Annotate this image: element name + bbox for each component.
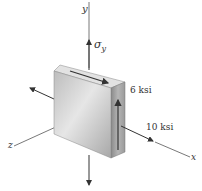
x-axis — [155, 142, 190, 157]
sigma-y-label: σy — [94, 38, 107, 53]
stress-element-diagram: y σy 6 ksi 10 ksi x z — [0, 0, 202, 191]
normal-x-label: 10 ksi — [146, 122, 173, 132]
shear-label: 6 ksi — [130, 85, 152, 95]
x-axis-label: x — [191, 152, 196, 162]
z-axis-label: z — [7, 140, 13, 150]
left-normal-arrow — [30, 88, 54, 99]
y-axis-label: y — [81, 3, 88, 14]
